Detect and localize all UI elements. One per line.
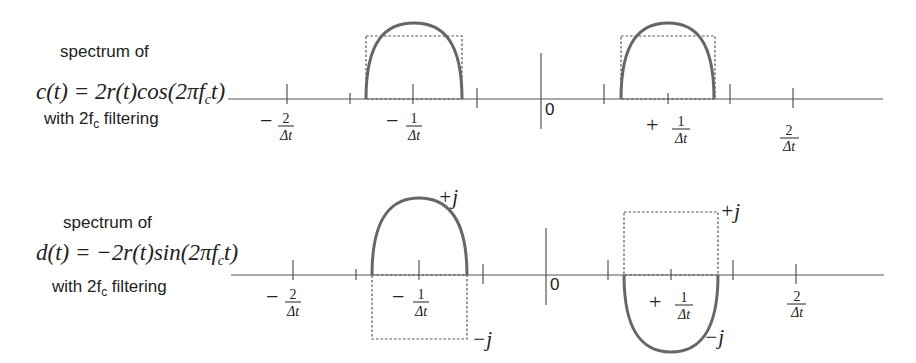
svg-text:Δt: Δt	[407, 128, 421, 143]
svg-text:−: −	[266, 284, 278, 309]
svg-text:2: 2	[786, 123, 793, 138]
panel-c-label-neg1: − 1 Δt	[386, 108, 422, 143]
svg-text:2: 2	[290, 287, 297, 302]
panel-c-label-line3: with 2fc filtering	[43, 109, 159, 131]
panel-d-annotation-left-plus-j: +j	[438, 185, 458, 209]
panel-d-label-line3: with 2fc filtering	[51, 277, 167, 299]
svg-text:2: 2	[794, 289, 801, 304]
panel-d-label-pos1: + 1 Δt	[649, 289, 693, 322]
panel-d-annotation-right-minus-j: −j	[704, 325, 724, 349]
panel-c-spectrum-lobe-right	[621, 23, 714, 99]
panel-d-zero-label: 0	[550, 275, 559, 294]
svg-text:−: −	[392, 284, 404, 309]
panel-c-spectrum-lobe-left	[366, 23, 462, 99]
svg-text:Δt: Δt	[674, 131, 688, 146]
svg-text:−: −	[260, 108, 272, 133]
panel-d-ideal-spectrum-right	[624, 212, 718, 275]
panel-c: spectrum of c(t) = 2r(t)cos(2πfct) with …	[36, 23, 883, 154]
svg-text:Δt: Δt	[782, 139, 796, 154]
svg-text:1: 1	[418, 287, 425, 302]
svg-text:2: 2	[283, 111, 290, 126]
svg-text:+: +	[649, 289, 661, 314]
spectrum-diagram: spectrum of c(t) = 2r(t)cos(2πfct) with …	[0, 0, 916, 363]
panel-d-label-line1: spectrum of	[63, 213, 152, 232]
panel-c-label-pos1: + 1 Δt	[646, 112, 690, 146]
svg-text:Δt: Δt	[286, 304, 300, 319]
panel-d-annotation-left-minus-j: −j	[472, 327, 492, 351]
panel-d-annotation-right-plus-j: +j	[720, 199, 740, 223]
panel-c-label-pos2: 2 Δt	[780, 123, 799, 154]
svg-text:1: 1	[681, 290, 688, 305]
panel-d-label-pos2: 2 Δt	[787, 289, 806, 320]
svg-text:Δt: Δt	[414, 304, 428, 319]
svg-text:Δt: Δt	[790, 305, 804, 320]
svg-text:1: 1	[411, 111, 418, 126]
panel-d-label-neg2: − 2 Δt	[266, 284, 301, 319]
svg-text:1: 1	[678, 114, 685, 129]
svg-text:+: +	[646, 112, 658, 137]
svg-text:Δt: Δt	[677, 307, 691, 322]
svg-text:Δt: Δt	[279, 128, 293, 143]
panel-c-ideal-spectrum-right	[621, 36, 715, 99]
panel-c-label-line1: spectrum of	[60, 42, 149, 61]
panel-c-label-neg2: − 2 Δt	[260, 108, 294, 143]
panel-d: spectrum of d(t) = −2r(t)sin(2πfct) with…	[36, 185, 884, 352]
panel-d-formula: d(t) = −2r(t)sin(2πfct)	[36, 240, 238, 268]
panel-d-label-neg1: − 1 Δt	[392, 284, 429, 319]
svg-text:−: −	[386, 108, 398, 133]
panel-c-formula: c(t) = 2r(t)cos(2πfct)	[36, 79, 225, 107]
panel-c-ideal-spectrum-left	[366, 36, 462, 99]
panel-c-zero-label: 0	[545, 100, 554, 119]
